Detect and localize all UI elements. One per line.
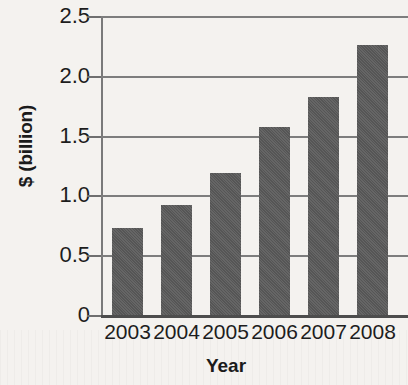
x-axis-title: Year [101,355,351,377]
plot-area [101,16,408,315]
bar [259,127,290,315]
y-axis-spine [101,16,103,315]
y-axis-tick-label: 1.5 [28,125,90,147]
gridline [101,315,408,318]
bar [210,173,241,315]
y-axis-tick-labels: 2.52.01.51.00.50 [28,0,90,385]
y-axis-tick-label: 1.0 [28,184,90,206]
y-axis-tickmark [87,16,101,18]
bar [308,97,339,315]
y-axis-tickmark [87,315,101,317]
bar [161,205,192,315]
y-axis-tick-label: 0 [28,304,90,326]
y-axis-tickmark [87,136,101,138]
gridline [101,16,408,18]
y-axis-tick-label: 2.0 [28,65,90,87]
bar-chart-figure: $ (billion) 2.52.01.51.00.50 20032004200… [0,0,408,385]
y-axis-tickmark [87,255,101,257]
bar [112,228,143,315]
y-axis-tickmark [87,195,101,197]
x-axis-tick-label: 2008 [343,320,403,344]
y-axis-tick-label: 0.5 [28,244,90,266]
y-axis-tick-label: 2.5 [28,5,90,27]
x-axis-tick-labels: 200320042005200620072008 [101,320,408,350]
y-axis-tickmark [87,76,101,78]
bar [357,45,388,315]
